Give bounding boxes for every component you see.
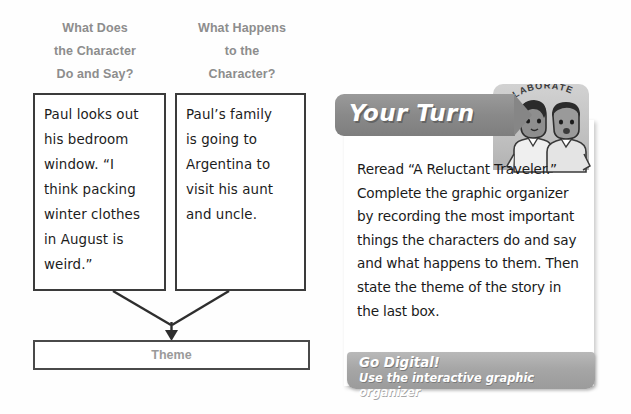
go-digital-bar[interactable]: Go Digital! Use the interactive graphic … bbox=[347, 352, 595, 389]
your-turn-panel: COLLABORATE bbox=[335, 86, 597, 398]
arrow-line-left bbox=[113, 291, 171, 325]
heading-line: the Character bbox=[24, 40, 166, 63]
entry-line: Paul looks out bbox=[44, 102, 164, 127]
handwritten-entry: Paul’s family is going to Argentina to v… bbox=[177, 95, 304, 227]
entry-line: window. “I bbox=[44, 152, 164, 177]
entry-line: Argentina to bbox=[186, 152, 304, 177]
arrow-line-right bbox=[172, 291, 229, 325]
entry-line: in August is bbox=[44, 227, 164, 252]
organizer-box-character-events[interactable]: Paul’s family is going to Argentina to v… bbox=[175, 93, 306, 291]
column-heading-character-events: What Happens to the Character? bbox=[172, 17, 312, 86]
go-digital-title: Go Digital! bbox=[359, 355, 440, 370]
entry-line: is going to bbox=[186, 127, 304, 152]
theme-label: Theme bbox=[151, 348, 191, 362]
entry-line: winter clothes bbox=[44, 202, 164, 227]
your-turn-title: Your Turn bbox=[349, 100, 475, 126]
your-turn-banner: Your Turn bbox=[335, 94, 515, 136]
heading-line: What Happens bbox=[172, 17, 312, 40]
entry-line: visit his aunt bbox=[186, 177, 304, 202]
entry-line: Paul’s family bbox=[186, 102, 304, 127]
worksheet-page: What Does the Character Do and Say? What… bbox=[0, 0, 631, 414]
entry-line: his bedroom bbox=[44, 127, 164, 152]
go-digital-subtitle: Use the interactive graphic organizer bbox=[359, 371, 595, 399]
organizer-box-theme[interactable]: Theme bbox=[33, 340, 310, 370]
column-heading-character-actions: What Does the Character Do and Say? bbox=[24, 17, 166, 86]
organizer-box-character-actions[interactable]: Paul looks out his bedroom window. “I th… bbox=[33, 93, 166, 291]
heading-line: Character? bbox=[172, 63, 312, 86]
entry-line: and uncle. bbox=[186, 202, 304, 227]
handwritten-entry: Paul looks out his bedroom window. “I th… bbox=[35, 95, 164, 277]
entry-line: think packing bbox=[44, 177, 164, 202]
heading-line: to the bbox=[172, 40, 312, 63]
graphic-organizer: What Does the Character Do and Say? What… bbox=[0, 0, 330, 414]
entry-line: weird.” bbox=[44, 252, 164, 277]
heading-line: Do and Say? bbox=[24, 63, 166, 86]
your-turn-instructions: Reread “A Reluctant Traveler.” Complete … bbox=[357, 158, 579, 323]
heading-line: What Does bbox=[24, 17, 166, 40]
